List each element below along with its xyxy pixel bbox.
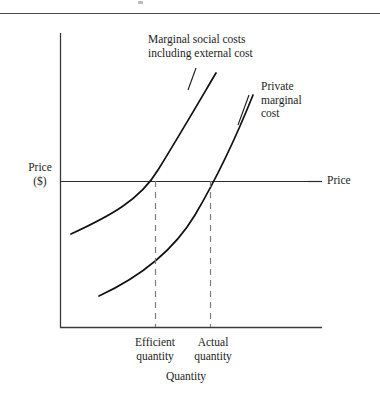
price-line-label: Price: [327, 174, 351, 188]
figure-root: Marginal social costs including external…: [0, 0, 380, 402]
private-marginal-cost-label: Private marginal cost: [261, 80, 302, 121]
private-marginal-cost-curve: [99, 95, 253, 296]
y-axis-label: Price ($): [22, 161, 58, 188]
marginal-social-cost-label: Marginal social costs including external…: [148, 33, 253, 60]
actual-quantity-label: Actual quantity: [181, 336, 245, 363]
x-axis-label: Quantity: [131, 370, 241, 384]
marginal-social-cost-leader-line: [188, 68, 196, 90]
marginal-social-cost-curve: [71, 73, 216, 234]
